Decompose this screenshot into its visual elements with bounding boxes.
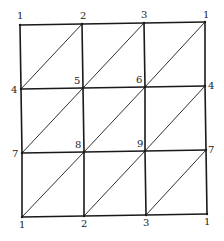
vertical-edge bbox=[145, 151, 146, 215]
vertex-node bbox=[204, 85, 206, 87]
vertex-label: 2 bbox=[80, 10, 86, 21]
horizontal-edge bbox=[145, 86, 205, 87]
vertex-label: 3 bbox=[143, 217, 149, 228]
diagonal-edge bbox=[146, 150, 206, 215]
vertex-node bbox=[82, 87, 84, 89]
vertex-node bbox=[205, 149, 207, 151]
vertex-label: 9 bbox=[137, 138, 143, 149]
diagonal-edge bbox=[145, 86, 205, 151]
diagonal-edge bbox=[22, 88, 83, 153]
vertical-edge bbox=[205, 86, 206, 150]
horizontal-edge bbox=[83, 87, 145, 88]
mesh-edges bbox=[20, 22, 207, 217]
diagonal-edge bbox=[84, 151, 145, 216]
vertex-node bbox=[144, 86, 146, 88]
horizontal-edge bbox=[82, 23, 144, 24]
vertex-label: 4 bbox=[208, 80, 214, 91]
horizontal-edge bbox=[144, 22, 205, 23]
vertex-label: 3 bbox=[141, 9, 147, 20]
vertical-edge bbox=[21, 89, 22, 153]
vertex-label: 7 bbox=[208, 144, 214, 155]
vertex-label: 1 bbox=[203, 9, 209, 20]
horizontal-edge bbox=[145, 150, 206, 151]
diagonal-edge bbox=[83, 23, 144, 88]
vertex-node bbox=[21, 216, 23, 218]
vertex-node bbox=[81, 23, 83, 25]
vertex-node bbox=[206, 213, 208, 215]
vertical-edge bbox=[83, 88, 84, 152]
vertical-edge bbox=[144, 23, 145, 87]
horizontal-edge bbox=[21, 88, 83, 89]
vertex-label: 6 bbox=[136, 74, 142, 85]
vertex-label: 7 bbox=[12, 148, 18, 159]
vertex-node bbox=[20, 88, 22, 90]
vertex-node bbox=[83, 215, 85, 217]
triangulated-grid-diagram: 1231456478971231 bbox=[0, 0, 224, 241]
vertical-edge bbox=[206, 150, 207, 214]
diagonal-edge bbox=[21, 24, 82, 89]
vertex-label: 5 bbox=[74, 75, 80, 86]
horizontal-edge bbox=[20, 24, 82, 25]
horizontal-edge bbox=[84, 151, 145, 152]
vertical-edge bbox=[82, 24, 83, 88]
mesh-diagonals bbox=[21, 22, 206, 217]
vertex-node bbox=[145, 214, 147, 216]
horizontal-edge bbox=[22, 216, 84, 217]
diagonal-edge bbox=[22, 152, 84, 217]
vertex-node bbox=[19, 24, 21, 26]
vertex-label: 4 bbox=[11, 84, 17, 95]
horizontal-edge bbox=[84, 215, 146, 216]
vertex-node bbox=[143, 22, 145, 24]
vertex-node bbox=[204, 21, 206, 23]
vertex-label: 1 bbox=[19, 219, 25, 230]
vertex-label: 1 bbox=[17, 10, 23, 21]
horizontal-edge bbox=[146, 214, 207, 215]
vertex-label: 2 bbox=[81, 218, 87, 229]
vertex-node bbox=[21, 152, 23, 154]
vertical-edge bbox=[20, 25, 21, 89]
diagonal-edge bbox=[145, 22, 205, 87]
vertex-label: 1 bbox=[204, 216, 210, 227]
vertex-label: 8 bbox=[75, 139, 81, 150]
horizontal-edge bbox=[22, 152, 84, 153]
vertex-node bbox=[144, 150, 146, 152]
diagonal-edge bbox=[84, 87, 145, 152]
vertex-node bbox=[83, 151, 85, 153]
